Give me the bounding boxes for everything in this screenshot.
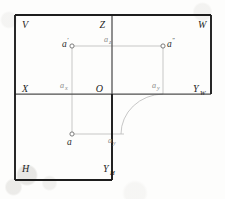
- transfer-arc: [121, 94, 163, 134]
- marker-a-top: [70, 132, 74, 136]
- trace-label-a-y-h-base: a: [108, 136, 112, 145]
- plane-frames: [15, 15, 211, 180]
- trace-label-a-x-base: a: [60, 81, 64, 90]
- point-label-a-front: a ′: [62, 36, 69, 49]
- plane-label-w: W: [198, 19, 208, 30]
- trace-label-a-y-h-subscript: y: [112, 139, 116, 146]
- axis-label-origin: O: [96, 83, 103, 94]
- trace-label-a-z: a z: [104, 35, 112, 46]
- point-markers: [70, 44, 165, 136]
- trace-label-a-y-h: a y: [108, 136, 116, 147]
- plane-label-v: V: [22, 19, 30, 30]
- axis-label-x: X: [21, 83, 29, 94]
- trace-label-a-y-w-subscript: y: [156, 84, 160, 91]
- axis-label-y-h: Y H: [103, 163, 116, 175]
- trace-label-a-x-subscript: x: [64, 84, 68, 91]
- projection-diagram: V W H Z X O Y W Y H a ′ a ″ a a: [0, 0, 225, 199]
- trace-label-a-z-subscript: z: [108, 38, 112, 45]
- marker-a-front: [70, 44, 74, 48]
- trace-label-a-y-w: a y: [152, 81, 160, 92]
- figure-canvas: V W H Z X O Y W Y H a ′ a ″ a a: [0, 0, 225, 199]
- axis-label-y-h-subscript: H: [109, 169, 116, 176]
- axis-label-y-w: Y W: [193, 83, 206, 95]
- axis-label-y-h-base: Y: [103, 163, 110, 174]
- plane-label-h: H: [21, 163, 30, 174]
- point-label-a-profile-prime: ″: [172, 36, 175, 43]
- point-label-a-top-base: a: [67, 137, 72, 147]
- marker-a-profile: [161, 44, 165, 48]
- axis-label-y-w-subscript: W: [200, 89, 206, 96]
- axis-label-z: Z: [99, 19, 105, 30]
- construction-lines: [72, 46, 163, 134]
- point-label-a-profile: a ″: [167, 36, 175, 49]
- axes-lines: [15, 15, 211, 180]
- trace-label-a-x: a x: [60, 81, 68, 92]
- axis-label-y-w-base: Y: [193, 83, 200, 94]
- trace-label-a-z-base: a: [104, 35, 108, 44]
- point-label-a-top: a: [67, 137, 72, 147]
- trace-label-a-y-w-base: a: [152, 81, 156, 90]
- point-label-a-front-prime: ′: [67, 36, 69, 43]
